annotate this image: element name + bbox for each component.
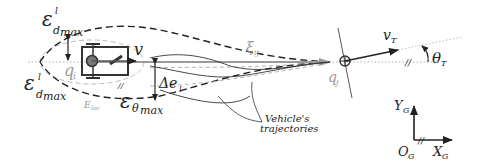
label-X-G: X G — [432, 144, 449, 161]
label-delta-e-l: Δe l — [158, 75, 182, 94]
diagram-svg: // // // ε l d max ε l d max ε θ max E l… — [0, 0, 484, 164]
label-eps-d-max-bottom: ε l d max — [24, 71, 67, 103]
svg-text:ε: ε — [42, 7, 53, 31]
target-heading-dotted — [398, 37, 462, 50]
svg-text:θ: θ — [432, 49, 441, 67]
global-frame — [414, 106, 452, 140]
svg-text:i: i — [73, 71, 76, 81]
svg-text:θ: θ — [132, 102, 139, 115]
label-trajectories-line2: trajectories — [260, 123, 318, 134]
label-eps-d-max-top: ε l d max — [42, 6, 84, 39]
label-O-G: O G — [398, 144, 415, 161]
svg-text:max: max — [140, 104, 164, 117]
svg-text:ij: ij — [254, 48, 260, 57]
label-v-T: v T — [383, 27, 397, 45]
svg-text:d: d — [53, 24, 60, 37]
svg-text:ε: ε — [24, 71, 35, 95]
label-q-i: q i — [64, 61, 76, 81]
svg-text:T: T — [441, 59, 447, 68]
svg-text:ε: ε — [120, 89, 131, 113]
parallel-mark-frame: // — [417, 136, 425, 146]
theta-T-arc — [422, 46, 428, 62]
svg-text:l: l — [38, 72, 41, 82]
svg-text:l: l — [179, 85, 182, 94]
svg-text:d: d — [36, 88, 43, 101]
svg-text:l: l — [55, 6, 58, 16]
svg-text:max: max — [43, 90, 67, 103]
label-v: v — [134, 40, 143, 59]
target-point-qj — [338, 28, 352, 98]
svg-text:v: v — [383, 27, 391, 43]
label-eps-theta-max: ε θ max — [120, 89, 164, 117]
vehicle-trajectory-diagram: // // // ε l d max ε l d max ε θ max E l… — [0, 0, 484, 164]
label-xi-ij: ξ ij — [246, 39, 260, 57]
parallel-mark-target: // — [404, 58, 412, 68]
svg-text:Δe: Δe — [158, 75, 177, 91]
svg-text:G: G — [442, 152, 449, 161]
svg-text:G: G — [408, 152, 415, 161]
label-Y-G: Y G — [394, 98, 410, 115]
svg-text:G: G — [403, 106, 410, 115]
trajectory-leader-2 — [252, 82, 262, 122]
label-e-loc: E loc — [83, 100, 101, 111]
svg-text:max: max — [60, 26, 84, 39]
label-theta-T: θ T — [432, 49, 447, 68]
trajectory-leader-1 — [218, 96, 262, 122]
svg-text:T: T — [391, 36, 397, 45]
label-q-j: q j — [328, 69, 339, 87]
svg-text:loc: loc — [91, 104, 101, 111]
target-velocity-arrow — [345, 50, 398, 61]
svg-text:E: E — [83, 100, 91, 110]
